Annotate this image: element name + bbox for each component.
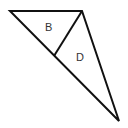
interior-segment <box>54 11 82 56</box>
outer-triangle <box>10 11 119 121</box>
region-label-b: B <box>45 21 52 33</box>
region-label-d: D <box>76 51 84 63</box>
triangle-diagram: B D <box>0 0 128 128</box>
